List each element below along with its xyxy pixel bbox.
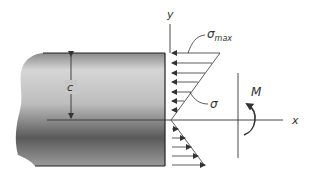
moment-arrow-icon bbox=[244, 104, 255, 135]
label-moment: M bbox=[251, 85, 262, 99]
sigma-leader bbox=[190, 92, 208, 104]
tensile-stress-distribution bbox=[171, 120, 205, 166]
label-y: y bbox=[166, 8, 174, 21]
bending-stress-diagram: c y σmax σ M x bbox=[0, 0, 312, 182]
beam-body bbox=[16, 53, 165, 166]
label-x: x bbox=[291, 114, 299, 127]
label-c: c bbox=[67, 81, 73, 94]
label-sigma-max: σmax bbox=[207, 27, 232, 43]
label-sigma: σ bbox=[210, 97, 218, 111]
sigma-max-leader bbox=[188, 35, 205, 53]
